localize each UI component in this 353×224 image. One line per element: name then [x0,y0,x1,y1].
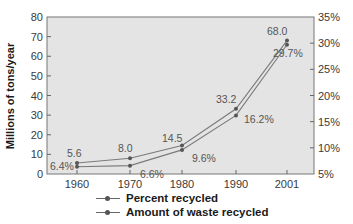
svg-text:33.2: 33.2 [216,93,237,105]
svg-text:5.6: 5.6 [67,147,82,159]
svg-text:1990: 1990 [224,178,248,190]
line-marker-icon [94,191,122,205]
svg-text:25%: 25% [318,63,340,75]
svg-text:50: 50 [31,70,43,82]
svg-text:1970: 1970 [118,178,142,190]
svg-text:30%: 30% [318,37,340,49]
svg-text:8.0: 8.0 [118,142,133,154]
svg-text:1980: 1980 [170,178,194,190]
svg-text:60: 60 [31,50,43,62]
svg-text:29.7%: 29.7% [273,47,303,59]
svg-text:10: 10 [31,148,43,160]
svg-text:30: 30 [31,109,43,121]
svg-text:40: 40 [31,90,43,102]
legend: Percent recycled Amount of waste recycle… [94,191,269,219]
svg-text:1960: 1960 [65,178,89,190]
right-axis: 5%10%15%20%25%30%35% [310,11,340,180]
svg-text:20: 20 [31,129,43,141]
svg-text:10%: 10% [318,142,340,154]
svg-text:14.5: 14.5 [162,132,183,144]
svg-text:5%: 5% [318,168,334,180]
svg-text:15%: 15% [318,116,340,128]
left-axis: 01020304050607080 [31,11,51,180]
svg-text:16.2%: 16.2% [244,113,274,125]
y-axis-label: Millions of tons/year [4,42,16,149]
svg-text:6.6%: 6.6% [140,168,164,180]
legend-item-percent: Percent recycled [94,191,269,205]
svg-text:6.4%: 6.4% [50,160,74,172]
svg-text:20%: 20% [318,90,340,102]
legend-item-amount: Amount of waste recycled [94,205,269,219]
svg-text:2001: 2001 [275,178,299,190]
svg-text:68.0: 68.0 [267,25,288,37]
svg-text:0: 0 [37,168,43,180]
svg-text:80: 80 [31,11,43,23]
line-marker-icon [94,205,122,219]
svg-text:70: 70 [31,31,43,43]
svg-text:9.6%: 9.6% [192,152,216,164]
svg-text:35%: 35% [318,11,340,23]
